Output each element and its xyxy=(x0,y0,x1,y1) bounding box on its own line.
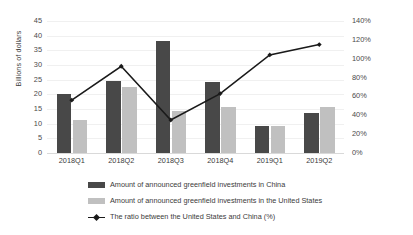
legend-item-china: Amount of announced greenfield investmen… xyxy=(0,177,413,193)
legend-swatch-usa-icon xyxy=(88,198,105,204)
y-axis-left-tick-label: 30 xyxy=(34,61,42,68)
ratio-line-layer xyxy=(47,21,344,153)
x-axis-tick-label: 2018Q4 xyxy=(207,156,233,165)
y-axis-left-tick-label: 15 xyxy=(34,105,42,112)
y-axis-right-ticks: 0%20%40%60%80%100%120%140% xyxy=(352,21,386,153)
x-axis-tick-label: 2019Q1 xyxy=(257,156,283,165)
gridline xyxy=(47,153,344,154)
x-axis-tick-label: 2018Q3 xyxy=(158,156,184,165)
y-axis-right-tick-label: 120% xyxy=(352,36,371,43)
legend-label-ratio: The ratio between the United States and … xyxy=(110,213,275,220)
legend-swatch-ratio-line-icon xyxy=(88,214,105,220)
y-axis-right-tick-label: 100% xyxy=(352,55,371,62)
chart-legend: Amount of announced greenfield investmen… xyxy=(0,177,413,225)
legend-item-usa: Amount of announced greenfield investmen… xyxy=(0,193,413,209)
legend-label-usa: Amount of announced greenfield investmen… xyxy=(110,197,322,204)
legend-label-china: Amount of announced greenfield investmen… xyxy=(110,181,285,188)
legend-swatch-china-icon xyxy=(88,182,105,188)
y-axis-right-tick-label: 60% xyxy=(352,93,367,100)
ratio-line-path xyxy=(72,45,320,120)
x-axis-category-labels: 2018Q12018Q22018Q32018Q42019Q12019Q2 xyxy=(47,156,344,168)
x-axis-tick-label: 2019Q2 xyxy=(306,156,332,165)
y-axis-left-ticks: 051015202530354045 xyxy=(18,21,42,153)
chart-container: Billions of dollars 051015202530354045 0… xyxy=(0,0,413,235)
x-axis-tick-label: 2018Q2 xyxy=(108,156,134,165)
y-axis-right-tick-label: 140% xyxy=(352,17,371,24)
plot-area xyxy=(47,21,344,153)
y-axis-left-tick-label: 10 xyxy=(34,120,42,127)
y-axis-left-tick-label: 5 xyxy=(38,135,42,142)
ratio-line-marker xyxy=(317,42,322,47)
y-axis-right-tick-label: 0% xyxy=(352,149,363,156)
y-axis-left-tick-label: 40 xyxy=(34,32,42,39)
y-axis-left-tick-label: 0 xyxy=(38,149,42,156)
x-axis-tick-label: 2018Q1 xyxy=(59,156,85,165)
legend-item-ratio: The ratio between the United States and … xyxy=(0,209,413,225)
y-axis-left-tick-label: 35 xyxy=(34,47,42,54)
y-axis-right-tick-label: 80% xyxy=(352,74,367,81)
y-axis-right-tick-label: 20% xyxy=(352,130,367,137)
y-axis-left-tick-label: 25 xyxy=(34,76,42,83)
y-axis-left-tick-label: 45 xyxy=(34,17,42,24)
y-axis-left-tick-label: 20 xyxy=(34,91,42,98)
y-axis-right-tick-label: 40% xyxy=(352,112,367,119)
